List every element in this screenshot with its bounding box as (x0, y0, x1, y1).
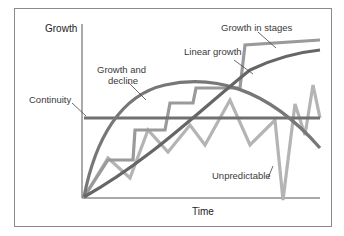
leader-continuity (72, 103, 86, 116)
leader-growth-in-stages (258, 32, 276, 48)
label-growth-and-decline-2: decline (108, 75, 138, 86)
label-continuity: Continuity (29, 94, 71, 105)
label-unpredictable: Unpredictable (212, 170, 271, 181)
label-linear-growth: Linear growth (184, 46, 242, 57)
x-axis-label: Time (192, 206, 214, 217)
label-growth-and-decline-1: Growth and (97, 64, 146, 75)
label-growth-in-stages: Growth in stages (221, 22, 292, 33)
chart-plot (0, 0, 344, 236)
series-unpredictable (84, 85, 320, 200)
y-axis-label: Growth (45, 23, 77, 34)
